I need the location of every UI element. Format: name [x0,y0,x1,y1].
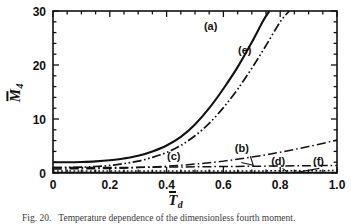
curve-label-d: (d) [271,155,285,167]
y-tick-label: 10 [33,113,47,127]
curve-label-a: (a) [204,20,218,32]
curve-label-b: (b) [235,142,249,154]
figure-number: Fig. 20. [22,213,51,223]
y-axis-label: M4 [1,68,31,118]
y-tick-label: 0 [39,167,46,181]
x-axis-label-subscript: d [178,199,183,210]
curve-labels: (a)(e)(b)(c)(d)(f) [167,20,324,166]
x-tick-label: 0.4 [158,178,175,192]
curve-a [53,11,269,162]
y-tick-label: 30 [33,5,47,19]
x-axis-label-base: T [168,192,177,208]
curve-label-e: (e) [238,44,252,56]
figure-caption: Fig. 20.Temperature dependence of the di… [22,212,342,224]
x-tick-label: 0 [50,178,57,192]
x-tick-label: 1.0 [329,178,346,192]
curve-b [53,140,337,169]
figure-container: 00.20.40.60.81.00102030 (a)(e)(b)(c)(d)(… [0,0,351,224]
x-tick-label: 0.2 [101,178,118,192]
axis-ticks [53,11,337,173]
x-tick-label: 0.6 [215,178,232,192]
figure-caption-text: Temperature dependence of the dimensionl… [58,213,295,223]
y-axis-label-base: M [7,89,23,102]
axis-frame [53,11,337,173]
x-axis-label: Td [0,192,351,210]
curve-label-c: (c) [167,150,181,162]
x-tick-label: 0.8 [272,178,289,192]
curve-label-f: (f) [313,155,324,167]
y-tick-label: 20 [33,59,47,73]
data-curves [53,11,337,172]
